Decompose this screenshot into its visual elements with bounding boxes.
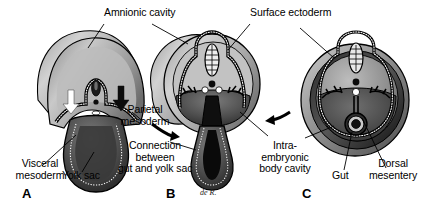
gut-lumen-c [352,120,361,129]
leader-amnionic-cavity-b [152,24,188,44]
embryology-figure: Amnionic cavity Surface ectoderm Parieta… [0,0,429,206]
aorta-right-b [216,87,222,93]
label-dorsal-mesentery: Dorsal mesentery [358,158,428,181]
label-yolk-sac: Yolk sac [62,170,100,182]
label-intraembryonic-body-cavity: Intra- embryonic body cavity [252,140,318,175]
panel-letter-b: B [166,186,175,201]
label-amnionic-cavity: Amnionic cavity [104,7,175,19]
label-connection-gut-yolk: Connection between gut and yolk sac [118,140,192,175]
neural-tube-lumen-a [94,82,97,90]
artist-signature: de R. [200,188,216,197]
panel-letter-c: C [302,186,311,201]
leader-surface-ectoderm-c [300,28,334,58]
progression-arrow-b-to-c [265,112,290,125]
label-parietal-mesoderm: Parietal mesoderm [105,104,185,127]
panel-letter-a: A [22,186,31,201]
label-surface-ectoderm: Surface ectoderm [250,7,331,19]
gut-lumen-a [92,111,100,115]
leader-intraembryonic-b [240,112,268,136]
aorta-left-b [202,87,208,93]
aorta-c [352,88,359,95]
label-gut: Gut [332,170,349,182]
notochord-b [209,81,216,88]
notochord-a [93,99,98,104]
notochord-c [353,79,360,86]
